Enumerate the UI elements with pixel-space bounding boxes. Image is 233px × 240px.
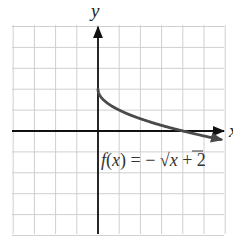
func-equals: = − xyxy=(126,150,160,170)
x-axis-label: x xyxy=(228,120,233,141)
function-graph: y x f(x) = − √x + 2 xyxy=(0,0,233,240)
func-arg: x xyxy=(111,150,120,170)
function-label: f(x) = − √x + 2 xyxy=(101,150,206,171)
sqrt-icon: √ xyxy=(160,150,170,170)
y-axis-label: y xyxy=(89,0,100,21)
func-radicand: x xyxy=(169,150,178,170)
function-curve xyxy=(98,89,221,139)
func-tail: + 2 xyxy=(178,150,206,170)
